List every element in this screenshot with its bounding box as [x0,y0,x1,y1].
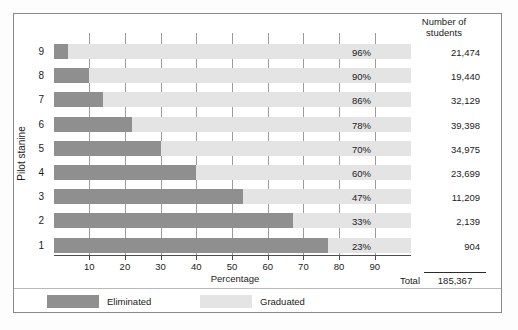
legend-separator [14,288,501,289]
students-column-header-line1: Number of [408,16,480,27]
x-tick-10 [89,255,90,260]
y-tick-label-9: 9 [26,46,44,57]
total-rule [424,272,486,273]
x-tick-90 [375,255,376,260]
y-tick-label-3: 3 [26,191,44,202]
graduated-percent-label: 33% [352,216,386,227]
x-tick-80 [339,255,340,260]
x-tick-label-60: 60 [262,261,273,272]
students-count-value: 32,129 [408,95,480,106]
x-tick-label-70: 70 [298,261,309,272]
graduated-percent-label: 23% [352,241,386,252]
students-count-value: 904 [408,241,480,252]
bar-eliminated [54,141,161,156]
legend-swatch-eliminated [47,295,99,308]
bar-eliminated [54,44,68,59]
chart-root: Number of students Pilot stanine 1020304… [0,0,518,330]
y-axis-title: Pilot stanine [16,109,27,199]
legend-label-eliminated: Eliminated [107,296,151,307]
y-tick-label-5: 5 [26,143,44,154]
students-count-value: 21,474 [408,47,480,58]
bar-eliminated [54,92,104,107]
graduated-percent-label: 86% [352,95,386,106]
legend-label-graduated: Graduated [260,296,305,307]
x-tick-label-30: 30 [155,261,166,272]
bar-eliminated [54,189,243,204]
total-label: Total [366,275,420,286]
y-tick-label-1: 1 [26,240,44,251]
x-axis-line [54,255,411,256]
graduated-percent-label: 70% [352,144,386,155]
bar-eliminated [54,165,197,180]
students-count-value: 11,209 [408,192,480,203]
legend-swatch-graduated [200,295,252,308]
x-tick-60 [268,255,269,260]
y-tick-label-7: 7 [26,94,44,105]
students-column-header-line2: students [408,27,480,38]
bar-eliminated [54,213,293,228]
x-tick-label-10: 10 [84,261,95,272]
plot-area: Number of students Pilot stanine 1020304… [0,0,518,330]
bar-eliminated [54,68,90,83]
y-tick-label-8: 8 [26,70,44,81]
graduated-percent-label: 78% [352,120,386,131]
bar-eliminated [54,238,329,253]
students-count-value: 2,139 [408,216,480,227]
x-tick-label-80: 80 [334,261,345,272]
x-tick-40 [196,255,197,260]
students-count-value: 39,398 [408,120,480,131]
graduated-percent-label: 60% [352,168,386,179]
students-count-value: 19,440 [408,71,480,82]
students-count-value: 23,699 [408,168,480,179]
x-tick-30 [161,255,162,260]
total-value: 185,367 [424,275,486,286]
students-column-header: Number of students [408,16,480,38]
students-count-value: 34,975 [408,144,480,155]
y-tick-label-4: 4 [26,167,44,178]
x-tick-50 [232,255,233,260]
x-tick-20 [125,255,126,260]
y-tick-label-6: 6 [26,119,44,130]
graduated-percent-label: 90% [352,71,386,82]
y-tick-label-2: 2 [26,215,44,226]
x-tick-label-90: 90 [370,261,381,272]
x-tick-label-20: 20 [120,261,131,272]
graduated-percent-label: 47% [352,192,386,203]
x-axis-title: Percentage [160,273,310,284]
x-tick-label-40: 40 [191,261,202,272]
x-tick-label-50: 50 [227,261,238,272]
x-tick-70 [303,255,304,260]
bar-eliminated [54,117,133,132]
graduated-percent-label: 96% [352,47,386,58]
